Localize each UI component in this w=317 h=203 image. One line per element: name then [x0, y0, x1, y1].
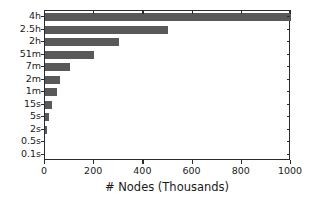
bar-chart-figure: 4h2.5h2h51m7m2m1m15s5s2s0.5s0.1s 0200400… — [0, 0, 317, 203]
x-tick-mark-top — [290, 10, 291, 14]
bar-15s — [45, 101, 52, 109]
bar-row — [45, 38, 289, 46]
y-tick-mark-right — [287, 16, 290, 17]
x-tick-mark — [241, 160, 242, 164]
x-tick-label-200: 200 — [84, 166, 102, 176]
x-tick-label-400: 400 — [133, 166, 151, 176]
y-tick-mark-right — [287, 154, 290, 155]
y-tick-mark — [41, 29, 44, 30]
bar-row — [45, 101, 289, 109]
y-tick-mark-right — [287, 104, 290, 105]
x-tick-mark — [192, 160, 193, 164]
y-tick-mark — [41, 154, 44, 155]
y-tick-label-2s: 2s — [0, 124, 41, 134]
x-tick-mark-top — [241, 10, 242, 14]
y-tick-mark — [41, 129, 44, 130]
bar-5s — [45, 113, 49, 121]
x-tick-mark-top — [192, 10, 193, 14]
bar-2m — [45, 76, 60, 84]
x-tick-label-800: 800 — [232, 166, 250, 176]
y-tick-mark — [41, 41, 44, 42]
y-tick-mark-right — [287, 116, 290, 117]
y-tick-mark-right — [287, 91, 290, 92]
y-tick-label-2h: 2h — [0, 36, 41, 46]
y-tick-mark — [41, 91, 44, 92]
y-tick-mark — [41, 141, 44, 142]
y-tick-mark — [41, 54, 44, 55]
y-tick-mark-right — [287, 141, 290, 142]
y-tick-mark — [41, 104, 44, 105]
y-tick-mark-right — [287, 41, 290, 42]
y-tick-mark — [41, 16, 44, 17]
x-tick-mark-top — [93, 10, 94, 14]
y-tick-label-2.5h: 2.5h — [0, 24, 41, 34]
bar-row — [45, 113, 289, 121]
bar-series — [45, 11, 289, 159]
y-tick-mark-right — [287, 66, 290, 67]
bar-2.5h — [45, 26, 168, 34]
y-tick-mark — [41, 116, 44, 117]
bar-row — [45, 13, 289, 21]
y-tick-label-51m: 51m — [0, 49, 41, 59]
bar-row — [45, 76, 289, 84]
y-tick-label-0.5s: 0.5s — [0, 136, 41, 146]
x-axis-label: # Nodes (Thousands) — [44, 180, 290, 194]
y-tick-label-2m: 2m — [0, 74, 41, 84]
x-tick-label-600: 600 — [183, 166, 201, 176]
bar-2h — [45, 38, 119, 46]
y-tick-mark — [41, 66, 44, 67]
x-tick-mark-top — [142, 10, 143, 14]
bar-row — [45, 51, 289, 59]
y-tick-mark-right — [287, 29, 290, 30]
bar-row — [45, 151, 289, 159]
plot-area — [44, 10, 290, 160]
bar-row — [45, 26, 289, 34]
y-tick-label-1m: 1m — [0, 86, 41, 96]
y-tick-label-4h: 4h — [0, 11, 41, 21]
y-tick-mark-right — [287, 79, 290, 80]
x-tick-mark-top — [44, 10, 45, 14]
x-tick-label-1000: 1000 — [278, 166, 302, 176]
bar-1m — [45, 88, 57, 96]
y-tick-label-15s: 15s — [0, 99, 41, 109]
x-tick-label-0: 0 — [41, 166, 47, 176]
y-axis-tick-labels: 4h2.5h2h51m7m2m1m15s5s2s0.5s0.1s — [0, 10, 41, 160]
bar-row — [45, 138, 289, 146]
y-tick-label-5s: 5s — [0, 111, 41, 121]
y-tick-mark — [41, 79, 44, 80]
y-tick-label-0.1s: 0.1s — [0, 149, 41, 159]
y-tick-mark-right — [287, 129, 290, 130]
y-tick-label-7m: 7m — [0, 61, 41, 71]
x-tick-mark — [44, 160, 45, 164]
x-tick-mark — [93, 160, 94, 164]
bar-row — [45, 126, 289, 134]
bar-51m — [45, 51, 94, 59]
x-tick-mark — [290, 160, 291, 164]
x-tick-mark — [142, 160, 143, 164]
bar-7m — [45, 63, 70, 71]
bar-2s — [45, 126, 47, 134]
y-tick-mark-right — [287, 54, 290, 55]
bar-row — [45, 63, 289, 71]
bar-row — [45, 88, 289, 96]
bar-4h — [45, 13, 291, 21]
